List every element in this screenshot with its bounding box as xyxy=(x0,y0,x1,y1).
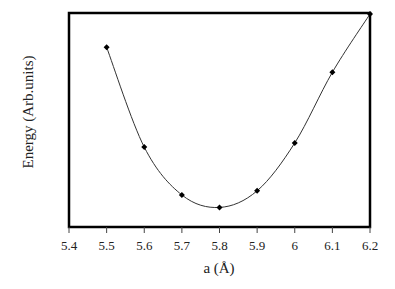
diamond-marker xyxy=(104,44,110,50)
diamond-marker xyxy=(141,144,147,150)
x-tick-label: 5.9 xyxy=(249,238,265,253)
energy-vs-lattice-chart: 5.45.55.65.75.85.966.16.2 a (Å) Energy (… xyxy=(0,0,395,289)
x-axis-tick-labels: 5.45.55.65.75.85.966.16.2 xyxy=(61,238,378,253)
diamond-marker xyxy=(217,204,223,210)
x-tick-label: 6.2 xyxy=(362,238,378,253)
x-tick-label: 5.5 xyxy=(99,238,115,253)
x-tick-label: 5.8 xyxy=(211,238,227,253)
x-axis-label: a (Å) xyxy=(203,260,234,277)
x-tick-label: 6.1 xyxy=(324,238,340,253)
x-tick-label: 5.6 xyxy=(136,238,153,253)
x-tick-label: 6 xyxy=(292,238,299,253)
y-axis-label: Energy (Arb.units) xyxy=(20,55,37,168)
plot-frame xyxy=(69,13,370,227)
diamond-marker xyxy=(329,69,335,75)
diamond-marker xyxy=(292,140,298,146)
energy-curve xyxy=(107,14,370,208)
x-tick-label: 5.4 xyxy=(61,238,78,253)
data-markers xyxy=(104,11,373,210)
x-tick-label: 5.7 xyxy=(174,238,191,253)
